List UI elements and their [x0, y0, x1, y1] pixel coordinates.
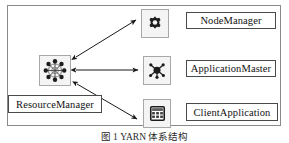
node-hub-icon	[147, 61, 167, 81]
clientapplication-label: ClientApplication	[186, 103, 278, 121]
calculator-window-icon	[148, 104, 167, 123]
figure-caption: 图 1 YARN 体系结构	[0, 131, 289, 143]
clientapplication-icon-tile	[143, 99, 171, 128]
gear-icon	[146, 15, 164, 33]
nodemanager-icon-tile	[141, 9, 169, 38]
nodemanager-label: NodeManager	[186, 12, 276, 29]
applicationmaster-icon-tile	[143, 56, 171, 85]
applicationmaster-label: ApplicationMaster	[186, 60, 276, 77]
yarn-architecture-figure: ResourceManager NodeManager ApplicationM…	[0, 0, 289, 143]
resourcemanager-icon-tile	[39, 55, 71, 86]
cluster-network-icon	[42, 58, 68, 83]
resourcemanager-label: ResourceManager	[8, 95, 102, 113]
